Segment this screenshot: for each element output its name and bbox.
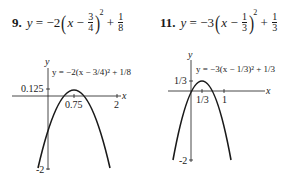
y-tick-label-top: 1/3 <box>174 75 187 86</box>
x-tick-label-vertex: 1/3 <box>196 94 209 105</box>
x-tick-label-right: 2 <box>114 99 119 110</box>
problem-9: 9. y = −2 ( x − 3 4 ) 2 + 1 8 <box>0 0 148 181</box>
y-axis-label: y <box>187 49 193 60</box>
curve-label: y = −3(x − 1/3)² + 1/3 <box>196 64 275 74</box>
curve-label: y = −2(x − 3/4)² + 1/8 <box>52 67 131 77</box>
x-tick-label-vertex: 0.75 <box>65 99 83 110</box>
x-axis-label: x <box>121 90 127 101</box>
y-tick-label-top: 0.125 <box>21 83 44 94</box>
problem-11: 11. y = −3 ( x − 1 3 ) 2 + 1 3 <box>148 0 296 181</box>
graph-11: y x y = −3(x − 1/3)² + 1/3 1/3 -2 1/3 1 <box>148 0 296 181</box>
y-tick-label-bottom: -2 <box>36 164 44 175</box>
y-tick-label-bottom: -2 <box>179 155 187 166</box>
x-tick-label-right: 1 <box>222 94 227 105</box>
graph-9: y x y = −2(x − 3/4)² + 1/8 0.125 -2 0.75… <box>0 0 148 181</box>
y-axis-label: y <box>44 56 50 67</box>
x-axis-label: x <box>265 85 271 96</box>
